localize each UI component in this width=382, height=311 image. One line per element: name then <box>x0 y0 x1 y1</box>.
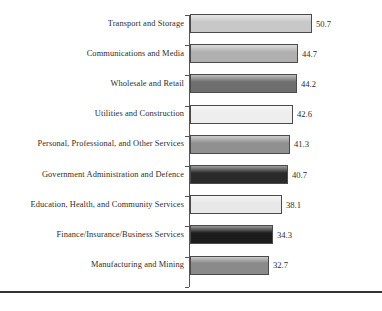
bar <box>190 256 269 275</box>
plot-area: Transport and Storage50.7Communications … <box>0 6 382 288</box>
bar-value-label: 32.7 <box>273 260 288 270</box>
bar <box>190 105 293 124</box>
bar <box>190 225 273 244</box>
bottom-rule <box>0 291 382 293</box>
bar-value-label: 44.2 <box>301 79 316 89</box>
bar-container: 40.7 <box>190 165 307 184</box>
bar-row: Utilities and Construction42.6 <box>0 101 382 128</box>
bar-value-label: 40.7 <box>292 170 307 180</box>
bar <box>190 135 290 154</box>
bar <box>190 195 282 214</box>
bar-value-label: 34.3 <box>277 230 292 240</box>
bar <box>190 44 298 63</box>
bar-value-label: 50.7 <box>316 19 331 29</box>
category-label: Utilities and Construction <box>4 109 184 119</box>
category-label: Wholesale and Retail <box>4 79 184 89</box>
bar-row: Transport and Storage50.7 <box>0 10 382 37</box>
bar-row: Education, Health, and Community Service… <box>0 191 382 218</box>
bar <box>190 74 297 93</box>
category-label: Government Administration and Defence <box>4 170 184 180</box>
bar-row: Wholesale and Retail44.2 <box>0 70 382 97</box>
bar-container: 34.3 <box>190 225 292 244</box>
category-label: Communications and Media <box>4 49 184 59</box>
bar-container: 44.2 <box>190 74 316 93</box>
bar-container: 41.3 <box>190 135 309 154</box>
bar <box>190 14 312 33</box>
bar-row: Communications and Media44.7 <box>0 40 382 67</box>
bar-container: 32.7 <box>190 256 288 275</box>
bar <box>190 165 288 184</box>
horizontal-bar-chart: Transport and Storage50.7Communications … <box>0 0 382 311</box>
bar-value-label: 44.7 <box>302 49 317 59</box>
category-label: Manufacturing and Mining <box>4 260 184 270</box>
bar-row: Government Administration and Defence40.… <box>0 161 382 188</box>
bar-container: 38.1 <box>190 195 301 214</box>
bar-container: 44.7 <box>190 44 317 63</box>
bar-container: 50.7 <box>190 14 331 33</box>
bar-value-label: 41.3 <box>294 139 309 149</box>
category-label: Education, Health, and Community Service… <box>4 200 184 210</box>
bar-row: Personal, Professional, and Other Servic… <box>0 131 382 158</box>
bar-value-label: 42.6 <box>297 109 312 119</box>
bar-row: Finance/Insurance/Business Services34.3 <box>0 221 382 248</box>
bar-row: Manufacturing and Mining32.7 <box>0 252 382 279</box>
bar-container: 42.6 <box>190 105 312 124</box>
category-label: Transport and Storage <box>4 19 184 29</box>
bar-value-label: 38.1 <box>286 200 301 210</box>
axis-tick <box>185 287 189 288</box>
category-label: Finance/Insurance/Business Services <box>4 230 184 240</box>
category-label: Personal, Professional, and Other Servic… <box>4 139 184 149</box>
